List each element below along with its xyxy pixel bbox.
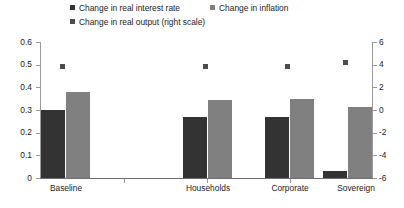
legend-label: Change in inflation <box>219 3 288 13</box>
legend-label: Change in real output (right scale) <box>79 17 205 27</box>
bar-real-interest-rate <box>41 110 65 178</box>
marker-real-output <box>285 64 290 69</box>
y-tick-left <box>36 155 40 156</box>
legend-item-inflation: Change in inflation <box>210 3 288 13</box>
y-axis-left-label: 0.6 <box>4 38 32 47</box>
legend-row-1: Change in real interest rate Change in i… <box>70 3 288 13</box>
bar-real-interest-rate <box>323 171 347 178</box>
y-axis-right-label: -4 <box>379 151 404 160</box>
y-tick-right <box>373 155 377 156</box>
x-tick <box>124 179 125 183</box>
bar-real-interest-rate <box>265 117 289 178</box>
x-axis-category-label: Sovereign <box>320 183 392 193</box>
bar-chart: Change in real interest rate Change in i… <box>0 0 404 208</box>
y-axis-left-label: 0.5 <box>4 60 32 69</box>
legend-swatch-icon <box>70 5 75 10</box>
y-axis-left-label: 0 <box>4 174 32 183</box>
y-axis-right-label: -2 <box>379 128 404 137</box>
marker-real-output <box>60 64 65 69</box>
y-tick-left <box>36 87 40 88</box>
y-axis-right-label: 2 <box>379 83 404 92</box>
y-tick-left <box>36 110 40 111</box>
y-axis-left-label: 0.2 <box>4 128 32 137</box>
y-axis-left-label: 0.1 <box>4 151 32 160</box>
y-axis-left-label: 0.4 <box>4 83 32 92</box>
marker-real-output <box>343 60 348 65</box>
bar-inflation <box>348 107 372 178</box>
y-tick-right <box>373 87 377 88</box>
y-axis-left-label: 0.3 <box>4 106 32 115</box>
y-axis-right-label: -6 <box>379 174 404 183</box>
y-tick-right <box>373 42 377 43</box>
bar-inflation <box>290 99 314 178</box>
legend-swatch-icon <box>70 19 75 24</box>
y-axis-right-label: 6 <box>379 38 404 47</box>
y-tick-right <box>373 110 377 111</box>
y-tick-left <box>36 65 40 66</box>
y-tick-left <box>36 42 40 43</box>
x-axis-category-label: Baseline <box>30 183 102 193</box>
bar-real-interest-rate <box>183 117 207 178</box>
y-axis-right-label: 0 <box>379 106 404 115</box>
y-tick-left <box>36 133 40 134</box>
y-tick-left <box>36 178 40 179</box>
x-axis-category-label: Households <box>172 183 244 193</box>
y-tick-right <box>373 178 377 179</box>
y-tick-right <box>373 65 377 66</box>
legend-row-2: Change in real output (right scale) <box>70 17 205 27</box>
bar-inflation <box>66 92 90 178</box>
marker-real-output <box>203 64 208 69</box>
legend-item-real-output: Change in real output (right scale) <box>70 17 205 27</box>
y-axis-right-label: 4 <box>379 60 404 69</box>
y-tick-right <box>373 133 377 134</box>
x-axis-category-label: Corporate <box>254 183 326 193</box>
legend-item-real-interest-rate: Change in real interest rate <box>70 3 180 13</box>
bar-inflation <box>208 100 232 178</box>
legend-label: Change in real interest rate <box>79 3 180 13</box>
legend-swatch-icon <box>210 5 215 10</box>
